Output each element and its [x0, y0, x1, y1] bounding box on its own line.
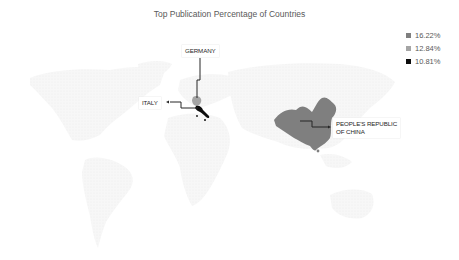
label-china-line1: PEOPLE'S REPUBLIC [336, 120, 397, 128]
australia-shape [330, 190, 374, 219]
sardinia-shape [196, 115, 198, 117]
continents [30, 61, 395, 248]
label-germany: GERMANY [182, 45, 219, 57]
label-china: PEOPLE'S REPUBLIC OF CHINA [333, 118, 400, 138]
south-america-shape [82, 158, 133, 248]
sicily-shape [204, 119, 206, 121]
africa-shape [164, 114, 230, 207]
hainan-shape [317, 150, 320, 153]
europe-shape [178, 74, 232, 108]
southeast-asia-shape [320, 154, 352, 168]
label-china-line2: OF CHINA [336, 128, 397, 136]
italy-arrow-icon [166, 101, 169, 104]
label-italy: ITALY [139, 97, 161, 109]
